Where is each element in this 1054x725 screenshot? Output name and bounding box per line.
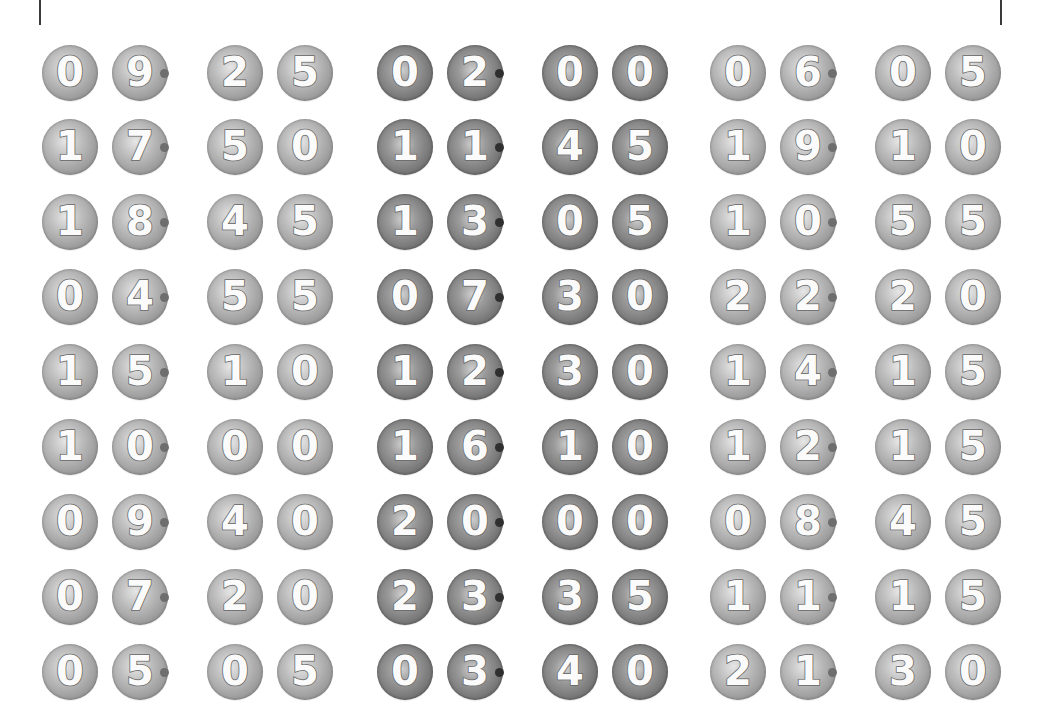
digit-text: 1 [724, 126, 752, 166]
minute-tens-ball: 0 [875, 45, 931, 101]
separator-dot-icon [160, 443, 169, 452]
digit-text: 9 [794, 126, 822, 166]
hour-tens-ball: 1 [42, 194, 98, 250]
digit-text: 5 [959, 576, 987, 616]
minute-tens-ball: 4 [542, 119, 598, 175]
separator-dot-icon [160, 293, 169, 302]
minute-ones-ball: 0 [945, 644, 1001, 700]
digit-text: 1 [889, 576, 917, 616]
digit-text: 7 [126, 576, 154, 616]
minute-ones-ball: 0 [612, 269, 668, 325]
digit-text: 9 [126, 52, 154, 92]
hour-tens-ball: 0 [377, 45, 433, 101]
separator-dot-icon [828, 368, 837, 377]
time-row: 1230 [377, 344, 677, 402]
separator-dot-icon [495, 368, 504, 377]
digit-text: 0 [291, 426, 319, 466]
digit-text: 5 [959, 52, 987, 92]
separator-dot-icon [495, 218, 504, 227]
hour-tens-ball: 0 [377, 269, 433, 325]
minute-tens-ball: 4 [207, 494, 263, 550]
minute-ones-ball: 5 [612, 119, 668, 175]
hour-tens-ball: 1 [710, 569, 766, 625]
digit-text: 3 [556, 276, 584, 316]
digit-text: 9 [126, 501, 154, 541]
time-group-2: 020011451305073012301610200023350340 [377, 0, 677, 725]
separator-dot-icon [160, 368, 169, 377]
minute-ones-ball: 0 [612, 494, 668, 550]
digit-text: 5 [221, 126, 249, 166]
hour-tens-ball: 1 [377, 419, 433, 475]
time-row: 0340 [377, 644, 677, 702]
time-row: 0200 [377, 45, 677, 103]
digit-text: 5 [291, 651, 319, 691]
hour-tens-ball: 0 [42, 569, 98, 625]
minute-ones-ball: 0 [277, 344, 333, 400]
hour-tens-ball: 1 [42, 344, 98, 400]
hour-tens-ball: 0 [42, 644, 98, 700]
digit-text: 0 [56, 52, 84, 92]
digit-text: 3 [556, 576, 584, 616]
separator-dot-icon [495, 518, 504, 527]
hour-tens-ball: 0 [710, 494, 766, 550]
digit-text: 5 [291, 52, 319, 92]
digit-text: 1 [56, 201, 84, 241]
separator-dot-icon [495, 293, 504, 302]
separator-dot-icon [160, 593, 169, 602]
minute-tens-ball: 1 [542, 419, 598, 475]
minute-tens-ball: 5 [875, 194, 931, 250]
hour-tens-ball: 1 [377, 119, 433, 175]
digit-text: 1 [391, 351, 419, 391]
time-row: 1305 [377, 194, 677, 252]
digit-text: 5 [959, 351, 987, 391]
hour-tens-ball: 1 [710, 119, 766, 175]
digit-text: 7 [461, 276, 489, 316]
minute-ones-ball: 0 [277, 119, 333, 175]
separator-dot-icon [160, 668, 169, 677]
digit-text: 2 [794, 276, 822, 316]
digit-text: 1 [391, 126, 419, 166]
digit-text: 1 [724, 351, 752, 391]
digit-text: 0 [56, 651, 84, 691]
hour-tens-ball: 2 [710, 644, 766, 700]
digit-text: 0 [889, 52, 917, 92]
digit-text: 4 [556, 651, 584, 691]
digit-text: 1 [56, 426, 84, 466]
hour-tens-ball: 0 [42, 269, 98, 325]
separator-dot-icon [828, 218, 837, 227]
minute-ones-ball: 0 [945, 119, 1001, 175]
digit-text: 4 [556, 126, 584, 166]
digit-text: 0 [556, 52, 584, 92]
hour-tens-ball: 2 [377, 569, 433, 625]
digit-text: 0 [626, 426, 654, 466]
time-row: 0720 [42, 569, 342, 627]
digit-text: 3 [461, 651, 489, 691]
minute-ones-ball: 0 [277, 494, 333, 550]
digit-text: 0 [56, 276, 84, 316]
minute-tens-ball: 0 [542, 194, 598, 250]
minute-tens-ball: 5 [207, 119, 263, 175]
minute-tens-ball: 3 [542, 269, 598, 325]
digit-text: 6 [461, 426, 489, 466]
separator-dot-icon [495, 443, 504, 452]
time-row: 0605 [710, 45, 1010, 103]
time-row: 2000 [377, 494, 677, 552]
time-row: 1910 [710, 119, 1010, 177]
time-row: 1415 [710, 344, 1010, 402]
minute-ones-ball: 0 [612, 644, 668, 700]
digit-text: 0 [724, 52, 752, 92]
time-row: 1845 [42, 194, 342, 252]
digit-text: 0 [291, 576, 319, 616]
digit-text: 2 [724, 651, 752, 691]
digit-text: 0 [626, 651, 654, 691]
digit-text: 3 [461, 201, 489, 241]
digit-text: 2 [391, 576, 419, 616]
left-edge-line [39, 0, 41, 25]
hour-tens-ball: 1 [710, 194, 766, 250]
time-row: 1000 [42, 419, 342, 477]
digit-text: 2 [889, 276, 917, 316]
minute-tens-ball: 1 [875, 419, 931, 475]
digit-text: 8 [126, 201, 154, 241]
digit-text: 2 [461, 351, 489, 391]
minute-tens-ball: 4 [875, 494, 931, 550]
